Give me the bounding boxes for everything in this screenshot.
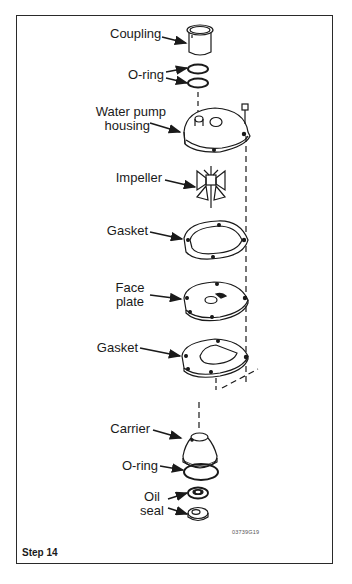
gasket-upper-part (184, 221, 248, 259)
label-water-pump-housing: Water pump housing (92, 105, 166, 133)
o-rings-top (188, 65, 208, 88)
label-oil-seal-line1: Oil (137, 490, 167, 504)
carrier-part (183, 433, 217, 468)
label-coupling: Coupling (110, 27, 160, 41)
label-carrier: Carrier (100, 422, 150, 436)
gasket-lower-part (182, 339, 248, 377)
coupling-part (187, 25, 213, 55)
label-face-plate: Face plate (110, 281, 150, 309)
label-gasket-lower: Gasket (90, 341, 138, 355)
figure-code: 03739G19 (232, 529, 259, 535)
exploded-parts-diagram (0, 0, 352, 584)
oil-seal-parts (188, 488, 208, 521)
step-label: Step 14 (22, 547, 58, 558)
label-o-ring-bottom: O-ring (110, 459, 158, 473)
label-oil-seal: Oil seal (137, 490, 167, 518)
label-face-plate-line1: Face (110, 281, 150, 295)
label-o-ring-top: O-ring (115, 68, 164, 82)
label-face-plate-line2: plate (110, 295, 150, 309)
water-pump-housing-part (184, 104, 250, 152)
label-housing-line1: Water pump (92, 105, 166, 119)
label-gasket-upper: Gasket (100, 224, 148, 238)
label-oil-seal-line2: seal (137, 504, 167, 518)
impeller-part (197, 166, 225, 208)
face-plate-part (184, 282, 248, 321)
label-housing-line2: housing (92, 119, 150, 133)
coupling-arrow (162, 37, 186, 43)
label-impeller: Impeller (110, 171, 162, 185)
